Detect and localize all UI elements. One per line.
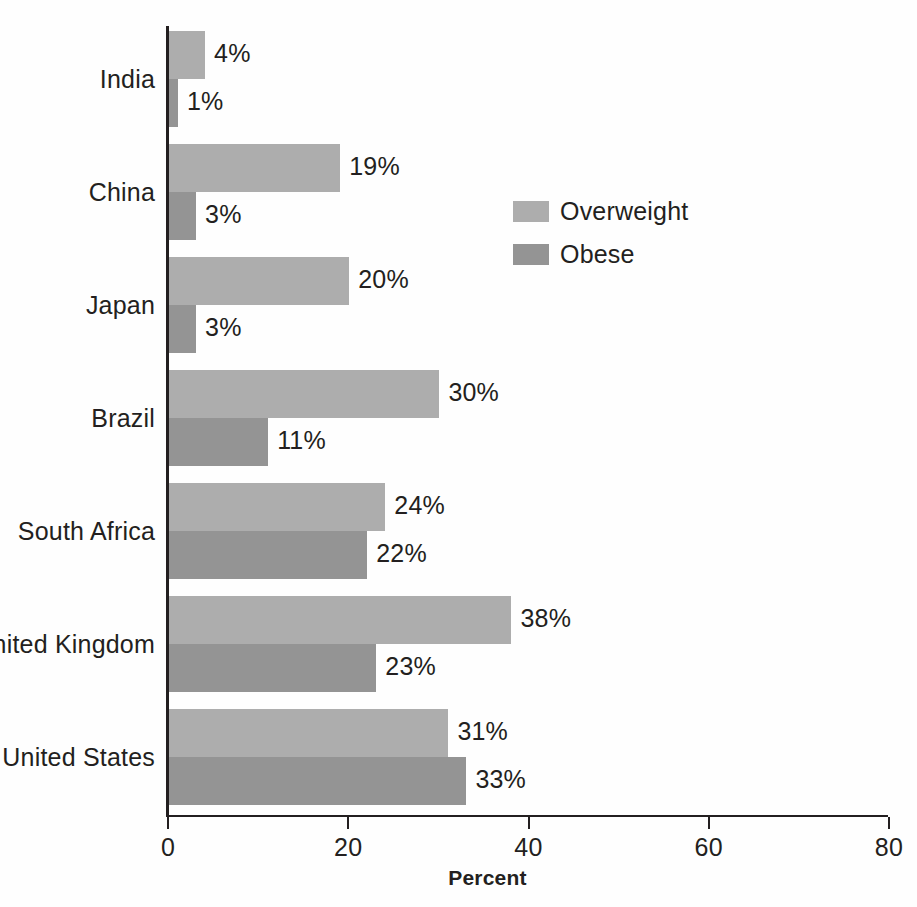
bar-obese	[169, 79, 178, 127]
bar-value-label: 11%	[277, 426, 326, 455]
bar-obese	[169, 644, 376, 692]
x-axis-tick-label: 80	[875, 833, 903, 862]
x-axis-tick-label: 20	[334, 833, 362, 862]
bar-overweight	[169, 370, 439, 418]
y-axis-category-label: Brazil	[91, 404, 155, 433]
y-axis-category-label: South Africa	[18, 517, 155, 546]
y-axis-category-label: India	[100, 65, 155, 94]
bar-value-label: 38%	[520, 604, 571, 633]
legend-swatch-overweight-icon	[513, 201, 549, 222]
x-axis-tick	[708, 817, 710, 829]
x-axis-title: Percent	[0, 866, 917, 890]
bar-value-label: 1%	[187, 87, 224, 116]
bar-overweight	[169, 257, 349, 305]
y-axis-category-label: United Kingdom	[0, 630, 155, 659]
legend-label-overweight: Overweight	[560, 199, 688, 224]
bar-value-label: 20%	[358, 265, 409, 294]
x-axis-title-text: Percent	[448, 866, 526, 889]
y-axis-category-label: United States	[2, 743, 155, 772]
bar-obese	[169, 757, 466, 805]
bar-value-label: 24%	[394, 491, 445, 520]
legend-label-obese: Obese	[560, 242, 635, 267]
bar-value-label: 31%	[457, 717, 508, 746]
bar-value-label: 19%	[349, 152, 400, 181]
bar-value-label: 4%	[214, 39, 251, 68]
bar-value-label: 22%	[376, 539, 427, 568]
bar-value-label: 33%	[475, 765, 526, 794]
x-axis-tick	[167, 817, 169, 829]
x-axis-tick-label: 40	[514, 833, 542, 862]
plot-area: 020406080India4%1%China19%3%Japan20%3%Br…	[0, 0, 917, 907]
x-axis-tick	[528, 817, 530, 829]
x-axis-tick-label: 60	[695, 833, 723, 862]
bar-overweight	[169, 144, 340, 192]
y-axis-category-label: China	[89, 178, 155, 207]
x-axis-tick	[888, 817, 890, 829]
bar-value-label: 30%	[448, 378, 499, 407]
chart-legend: Overweight Obese	[513, 196, 688, 282]
y-axis-category-label: Japan	[86, 291, 155, 320]
legend-swatch-obese-icon	[513, 244, 549, 265]
bar-obese	[169, 531, 367, 579]
x-axis-tick	[347, 817, 349, 829]
bar-overweight	[169, 483, 385, 531]
legend-item-overweight: Overweight	[513, 196, 688, 226]
bar-obese	[169, 192, 196, 240]
bar-overweight	[169, 31, 205, 79]
bar-chart: 020406080India4%1%China19%3%Japan20%3%Br…	[0, 0, 917, 907]
bar-obese	[169, 418, 268, 466]
bar-value-label: 3%	[205, 313, 242, 342]
bar-value-label: 23%	[385, 652, 436, 681]
bar-overweight	[169, 709, 448, 757]
bar-overweight	[169, 596, 511, 644]
bar-value-label: 3%	[205, 200, 242, 229]
legend-item-obese: Obese	[513, 239, 688, 269]
x-axis-tick-label: 0	[161, 833, 175, 862]
bar-obese	[169, 305, 196, 353]
